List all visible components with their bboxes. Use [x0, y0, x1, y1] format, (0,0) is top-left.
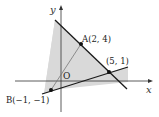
point-a-label: A(2, 4)	[81, 34, 111, 44]
y-axis-arrow-icon	[59, 5, 63, 10]
point-b-label: B(−1, −1)	[6, 95, 49, 105]
point-b	[49, 88, 53, 92]
y-axis-label: y	[49, 4, 56, 15]
point-p-label: (5, 1)	[106, 56, 129, 66]
x-axis-arrow-icon	[148, 79, 153, 83]
diagram-canvas: y x O A(2, 4) (5, 1) B(−1, −1)	[0, 0, 159, 117]
point-p	[107, 70, 111, 74]
x-axis-label: x	[146, 84, 152, 95]
origin-label: O	[63, 71, 70, 81]
coordinate-diagram: y x O A(2, 4) (5, 1) B(−1, −1)	[0, 0, 159, 117]
